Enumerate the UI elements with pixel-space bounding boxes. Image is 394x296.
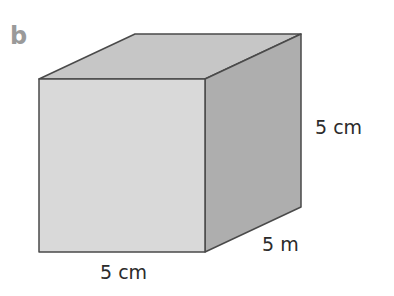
- cube-diagram: b 5 cm 5 m 5 cm: [0, 0, 394, 296]
- depth-label: 5 m: [262, 233, 299, 255]
- width-label: 5 cm: [100, 261, 147, 283]
- height-label: 5 cm: [315, 116, 362, 138]
- part-letter: b: [10, 22, 27, 50]
- cube-front-face: [39, 79, 205, 252]
